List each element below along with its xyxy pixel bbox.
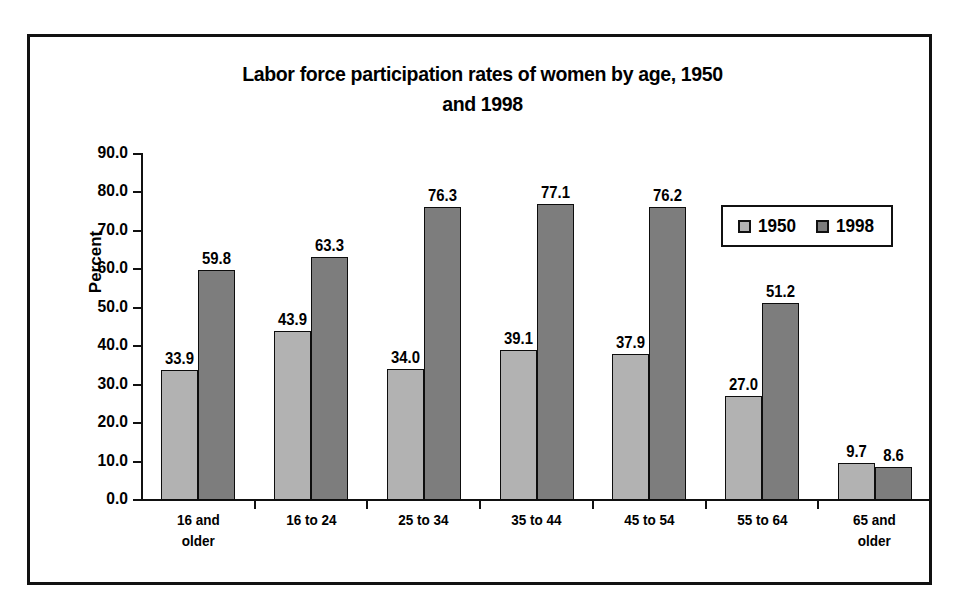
y-axis-tick	[133, 384, 142, 386]
y-axis-tick	[133, 191, 142, 193]
chart-title-line-2: and 1998	[127, 89, 838, 119]
y-axis-tick	[133, 499, 142, 501]
chart-title: Labor force participation rates of women…	[127, 59, 838, 119]
bar-1950-35-to-44[interactable]	[500, 350, 537, 500]
x-axis-category-label-line: 25 to 34	[373, 509, 474, 530]
x-axis-category-label: 35 to 44	[486, 509, 587, 530]
y-axis-tick	[133, 153, 142, 155]
bar-1998-35-to-44[interactable]	[537, 204, 574, 500]
y-axis-tick-label: 70.0	[54, 220, 128, 240]
bar-value-label: 59.8	[191, 250, 242, 268]
y-axis-tick-label: 90.0	[54, 143, 128, 163]
x-axis-category-label: 45 to 54	[598, 509, 699, 530]
y-axis-tick-label: 10.0	[54, 451, 128, 471]
bar-1950-16-and-older[interactable]	[161, 370, 198, 500]
x-axis-tick	[366, 501, 368, 509]
bar-value-label: 76.2	[642, 187, 693, 205]
bar-value-label: 63.3	[304, 237, 355, 255]
legend-item-1998[interactable]: 1998	[816, 216, 876, 237]
legend-swatch-1998-icon	[816, 220, 829, 233]
x-axis-tick	[479, 501, 481, 509]
x-axis-category-label: 16 andolder	[148, 509, 249, 551]
x-axis-category-label-line: 55 to 64	[711, 509, 812, 530]
x-axis-tick	[592, 501, 594, 509]
y-axis-tick	[133, 345, 142, 347]
bar-1998-16-to-24[interactable]	[311, 257, 348, 500]
legend-swatch-1950-icon	[738, 220, 751, 233]
legend-label-1950: 1950	[758, 216, 796, 237]
y-axis-tick	[133, 461, 142, 463]
x-axis-category-label-line: 35 to 44	[486, 509, 587, 530]
x-axis-category-label: 55 to 64	[711, 509, 812, 530]
bar-1950-16-to-24[interactable]	[274, 331, 311, 500]
bar-1998-55-to-64[interactable]	[762, 303, 799, 500]
bar-value-label: 8.6	[868, 447, 919, 465]
y-axis-tick-label: 0.0	[54, 489, 128, 509]
y-axis-tick-label: 20.0	[54, 412, 128, 432]
x-axis-tick	[930, 501, 932, 509]
chart-legend[interactable]: 1950 1998	[721, 205, 893, 247]
y-axis-tick-label: 40.0	[54, 335, 128, 355]
x-axis-category-label: 25 to 34	[373, 509, 474, 530]
bar-value-label: 77.1	[529, 184, 580, 202]
bar-1998-65-and-older[interactable]	[875, 467, 912, 500]
bar-value-label: 76.3	[417, 187, 468, 205]
x-axis-category-label-line: 45 to 54	[598, 509, 699, 530]
legend-label-1998: 1998	[836, 216, 874, 237]
y-axis-tick-label: 80.0	[54, 181, 128, 201]
x-axis-category-label-line: older	[824, 530, 925, 551]
bar-group: 37.976.2	[612, 154, 686, 500]
bar-group: 33.959.8	[161, 154, 235, 500]
y-axis-tick-label: 30.0	[54, 374, 128, 394]
figure-frame: Labor force participation rates of women…	[27, 34, 932, 585]
bar-value-label: 51.2	[755, 283, 806, 301]
y-axis-tick	[133, 307, 142, 309]
y-axis-tick	[133, 230, 142, 232]
x-axis-category-label-line: older	[148, 530, 249, 551]
bar-1998-16-and-older[interactable]	[198, 270, 235, 500]
x-axis-category-label: 65 andolder	[824, 509, 925, 551]
y-axis-tick-label: 50.0	[54, 297, 128, 317]
bar-1950-55-to-64[interactable]	[725, 396, 762, 500]
x-axis-category-label-line: 16 to 24	[260, 509, 361, 530]
bar-1950-25-to-34[interactable]	[387, 369, 424, 500]
y-axis-tick-label: 60.0	[54, 258, 128, 278]
bar-1998-45-to-54[interactable]	[649, 207, 686, 500]
x-axis-tick	[705, 501, 707, 509]
bar-group: 34.076.3	[387, 154, 461, 500]
figure-caption-clipped	[27, 596, 932, 614]
chart-title-line-1: Labor force participation rates of women…	[127, 59, 838, 89]
x-axis-tick	[817, 501, 819, 509]
bar-group: 43.963.3	[274, 154, 348, 500]
legend-item-1950[interactable]: 1950	[738, 216, 798, 237]
x-axis-tick	[254, 501, 256, 509]
x-axis-category-label-line: 16 and	[148, 509, 249, 530]
x-axis-category-label-line: 65 and	[824, 509, 925, 530]
bar-group: 39.177.1	[500, 154, 574, 500]
bar-1998-25-to-34[interactable]	[424, 207, 461, 500]
bar-1950-45-to-54[interactable]	[612, 354, 649, 500]
y-axis-tick	[133, 422, 142, 424]
y-axis-tick	[133, 268, 142, 270]
x-axis-category-label: 16 to 24	[260, 509, 361, 530]
bar-1950-65-and-older[interactable]	[838, 463, 875, 500]
